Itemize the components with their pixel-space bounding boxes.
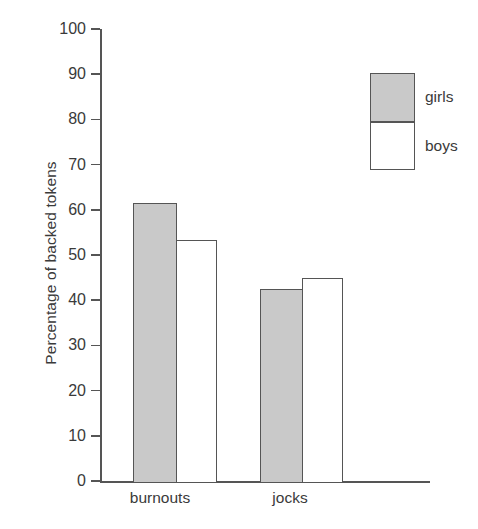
y-axis-tick — [91, 390, 100, 392]
y-axis-tick-label: 20 — [42, 382, 86, 400]
y-axis-tick-label: 80 — [42, 110, 86, 128]
y-axis-tick-label: 30 — [42, 336, 86, 354]
y-axis-tick — [91, 119, 100, 121]
y-axis-tick-label: 40 — [42, 291, 86, 309]
y-axis-tick-label: 50 — [42, 246, 86, 264]
bar-burnouts-girls — [133, 203, 177, 483]
y-axis-tick-label: 60 — [42, 201, 86, 219]
y-axis-tick-label: 70 — [42, 156, 86, 174]
y-axis-tick — [91, 28, 100, 30]
y-axis-tick-label: 100 — [42, 20, 86, 38]
bar-jocks-girls — [260, 289, 303, 483]
x-axis-label-burnouts: burnouts — [110, 489, 210, 507]
y-axis-tick — [91, 299, 100, 301]
y-axis-tick — [91, 73, 100, 75]
y-axis-tick — [91, 254, 100, 256]
y-axis-tick — [91, 209, 100, 211]
y-axis-tick — [91, 164, 100, 166]
legend-swatch-boys — [370, 122, 415, 171]
y-axis-tick-label: 10 — [42, 427, 86, 445]
bar-jocks-boys — [302, 278, 343, 483]
legend-label-girls: girls — [425, 88, 453, 106]
y-axis-line — [100, 29, 102, 482]
legend-label-boys: boys — [425, 137, 458, 155]
bar-chart: Percentage of backed tokens 100908070605… — [0, 0, 478, 529]
legend: girls boys — [370, 73, 415, 170]
y-axis-tick-label: 90 — [42, 65, 86, 83]
y-axis-tick — [91, 480, 100, 482]
y-axis-tick — [91, 435, 100, 437]
y-axis-tick — [91, 345, 100, 347]
legend-swatch-girls — [370, 73, 415, 122]
x-axis-label-jocks: jocks — [240, 489, 340, 507]
bar-burnouts-boys — [176, 240, 217, 483]
y-axis-tick-label: 0 — [42, 472, 86, 490]
